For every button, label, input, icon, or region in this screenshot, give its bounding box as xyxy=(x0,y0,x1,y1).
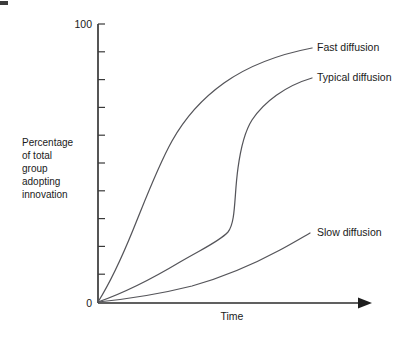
y-axis-title-line-3: group xyxy=(22,163,48,174)
series-label-typical-diffusion: Typical diffusion xyxy=(317,71,392,83)
y-axis-title-line-2: of total xyxy=(22,150,52,161)
series-label-fast-diffusion: Fast diffusion xyxy=(317,41,379,53)
y-axis-title-line-4: adopting xyxy=(22,176,60,187)
y-axis-min-label: 0 xyxy=(86,297,92,309)
diffusion-curves-chart: 100 0 Fast diffusion Typical diffusion S… xyxy=(0,0,415,338)
series-label-slow-diffusion: Slow diffusion xyxy=(317,226,382,238)
scan-artifact-mark xyxy=(0,1,8,5)
y-axis-max-label: 100 xyxy=(74,18,92,30)
y-axis-title-line-5: innovation xyxy=(22,189,68,200)
y-axis-title-line-1: Percentage xyxy=(22,137,74,148)
chart-page: 100 0 Fast diffusion Typical diffusion S… xyxy=(0,0,415,338)
x-axis-title: Time xyxy=(221,310,244,322)
